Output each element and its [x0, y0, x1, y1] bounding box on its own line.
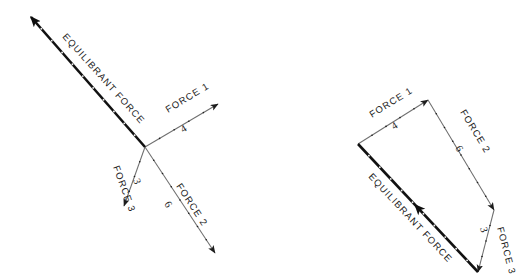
left-force-2-magnitude: 6 — [162, 199, 174, 209]
right-force-2-scale-tick — [435, 113, 437, 115]
right-equilibrant-force-scale-tick — [368, 155, 370, 157]
right-force-1-scale-tick — [371, 134, 373, 136]
left-force-2-scale-tick — [179, 199, 181, 201]
left-force-3-scale-tick — [139, 161, 141, 163]
right-force-1: FORCE 14 — [358, 84, 428, 144]
right-force-1-scale-tick — [385, 126, 387, 128]
left-equilibrant-force-scale-tick — [134, 134, 136, 136]
right-force-2-scale-tick — [485, 195, 487, 197]
left-force-2-scale-tick — [188, 212, 190, 214]
left-force-1-label: FORCE 1 — [163, 80, 211, 115]
right-force-2: FORCE 26 — [428, 100, 494, 210]
left-force-2-scale-tick — [170, 186, 172, 188]
left-force-2: FORCE 26 — [145, 147, 215, 253]
right-equilibrant-force-scale-tick — [423, 213, 425, 215]
right-equilibrant-force-scale-tick — [390, 178, 392, 180]
left-equilibrant-force-scale-tick — [92, 87, 94, 89]
right-equilibrant-force-scale-tick — [466, 259, 468, 261]
right-force-1-label: FORCE 1 — [367, 84, 414, 119]
right-force-2-scale-tick — [444, 127, 446, 129]
right-force-3: FORCE 33 — [478, 210, 518, 276]
left-equilibrant-force-scale-tick — [61, 52, 63, 54]
right-force-2-scale-tick — [452, 140, 454, 142]
right-equilibrant-force-scale-tick — [455, 248, 457, 250]
left-force-3-scale-tick — [134, 176, 136, 178]
right-equilibrant-force-label: EQUILIBRANT FORCE — [367, 171, 455, 265]
right-force-1-scale-tick — [399, 117, 401, 119]
right-force-2-scale-tick — [477, 182, 479, 184]
left-equilibrant-force-scale-tick — [123, 122, 125, 124]
right-equilibrant-force-scale-tick — [412, 201, 414, 203]
left-equilibrant-force-scale-tick — [113, 111, 115, 113]
left-force-2-scale-tick — [153, 159, 155, 161]
right-force-3-scale-tick — [481, 256, 483, 258]
right-equilibrant-force-scale-tick — [401, 190, 403, 192]
left-equilibrant-force-shaft — [31, 17, 145, 147]
left-force-3: FORCE 33 — [111, 147, 145, 214]
right-force-2-scale-tick — [460, 154, 462, 156]
left-force-1: FORCE 14 — [145, 80, 218, 147]
left-force-2-scale-tick — [197, 226, 199, 228]
right-force-2-scale-tick — [468, 168, 470, 170]
left-force-2-scale-tick — [162, 173, 164, 175]
left-force-1-scale-tick — [188, 120, 190, 122]
left-force-1-scale-tick — [203, 112, 205, 114]
left-force-2-label: FORCE 2 — [174, 181, 210, 228]
left-equilibrant-force-scale-tick — [103, 99, 105, 101]
right-equilibrant-force-scale-tick — [433, 225, 435, 227]
diagram-right-group: FORCE 14FORCE 26FORCE 33EQUILIBRANT FORC… — [358, 84, 518, 275]
figure-canvas: FORCE 14FORCE 26FORCE 33EQUILIBRANT FORC… — [0, 0, 528, 277]
right-force-3-label: FORCE 3 — [495, 226, 518, 276]
left-force-1-scale-tick — [159, 138, 161, 140]
left-equilibrant-force-scale-tick — [51, 40, 53, 42]
left-force-3-label: FORCE 3 — [111, 164, 138, 214]
left-equilibrant-force: EQUILIBRANT FORCE — [31, 17, 147, 147]
left-force-3-magnitude: 3 — [131, 177, 143, 186]
force-diagrams-svg: FORCE 14FORCE 26FORCE 33EQUILIBRANT FORC… — [0, 0, 528, 277]
left-equilibrant-force-scale-tick — [40, 28, 42, 30]
left-force-2-scale-tick — [205, 239, 207, 241]
left-equilibrant-force-label: EQUILIBRANT FORCE — [61, 31, 148, 126]
left-force-1-scale-tick — [173, 129, 175, 131]
left-equilibrant-force-scale-tick — [82, 75, 84, 77]
right-equilibrant-force: EQUILIBRANT FORCE — [358, 144, 478, 272]
right-force-3-scale-tick — [485, 240, 487, 242]
left-equilibrant-force-scale-tick — [72, 63, 74, 65]
diagram-left-group: FORCE 14FORCE 26FORCE 33EQUILIBRANT FORC… — [31, 17, 218, 253]
right-equilibrant-force-scale-tick — [444, 236, 446, 238]
right-equilibrant-force-scale-tick — [379, 166, 381, 168]
right-force-1-scale-tick — [413, 108, 415, 110]
